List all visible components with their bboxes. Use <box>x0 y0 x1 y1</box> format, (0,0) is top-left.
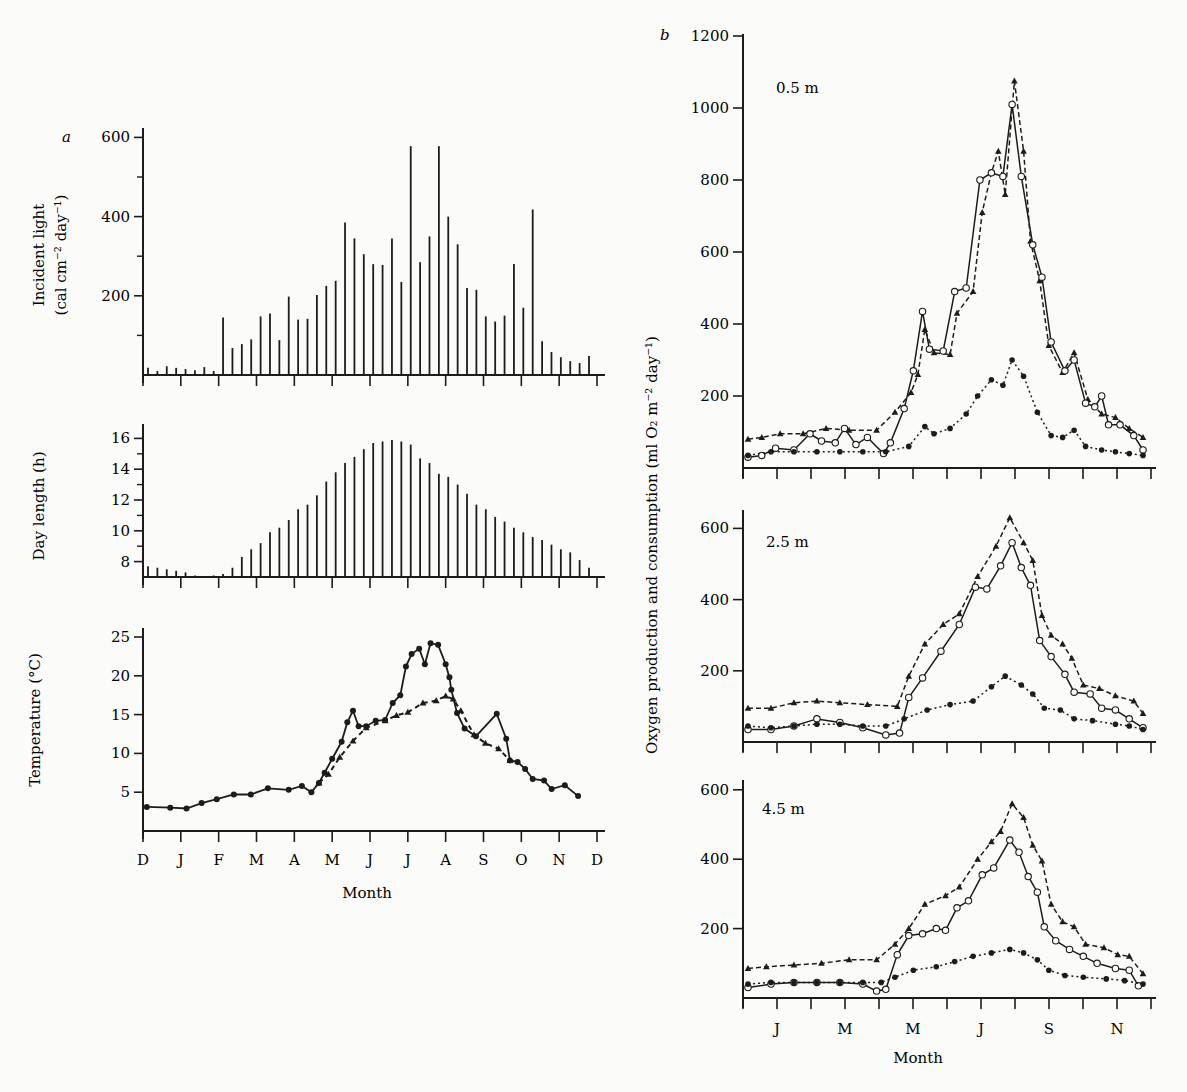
temperature-lines <box>144 640 581 811</box>
data-point-filled-circle <box>1062 973 1068 979</box>
data-point-open-circle <box>963 285 969 291</box>
data-point-open-circle <box>883 986 889 992</box>
data-point-triangle <box>457 707 464 713</box>
data-point-triangle <box>974 573 981 579</box>
data-point-open-circle <box>896 730 902 736</box>
y-tick-label: 400 <box>101 208 130 226</box>
data-point-triangle <box>442 692 449 698</box>
data-point-filled-circle <box>1002 673 1008 679</box>
data-point-open-circle <box>1126 716 1132 722</box>
data-point-open-circle <box>1009 539 1015 545</box>
data-point-open-circle <box>979 872 985 878</box>
data-point-circle <box>329 756 335 762</box>
data-point-filled-circle <box>791 723 797 729</box>
data-point-open-circle <box>1062 368 1068 374</box>
data-point-circle <box>397 692 403 698</box>
data-point-open-circle <box>1041 924 1047 930</box>
data-point-circle <box>167 805 173 811</box>
y-tick-label: 8 <box>120 553 130 571</box>
y-tick-label: 16 <box>111 429 130 447</box>
data-point-circle <box>428 640 434 646</box>
data-point-filled-circle <box>791 980 797 986</box>
data-point-filled-circle <box>1140 453 1146 459</box>
data-point-circle <box>214 796 220 802</box>
x-tick-label: J <box>976 1020 984 1038</box>
data-point-filled-circle <box>963 411 969 417</box>
y-tick-label: 400 <box>700 591 729 609</box>
data-point-circle <box>422 661 428 667</box>
x-tick-label: D <box>591 851 603 869</box>
data-point-triangle <box>995 148 1002 154</box>
data-point-triangle <box>956 610 963 616</box>
data-point-triangle <box>922 901 929 907</box>
data-point-triangle <box>970 288 977 294</box>
data-point-triangle <box>1048 901 1055 907</box>
data-point-open-circle <box>1034 889 1040 895</box>
data-point-open-circle <box>1126 967 1132 973</box>
oxygen-4-5m-axes: JMMJSN200400600 <box>700 780 1156 1038</box>
data-point-triangle <box>1112 692 1119 698</box>
data-point-filled-circle <box>989 377 995 383</box>
day-length-chart: 810121416 Day length (h) <box>30 424 605 588</box>
temperature-ylabel: Temperature (°C) <box>26 653 44 787</box>
y-tick-label: 10 <box>111 522 130 540</box>
data-point-open-circle <box>1048 653 1054 659</box>
data-point-circle <box>515 759 521 765</box>
data-point-filled-circle <box>901 716 907 722</box>
data-point-circle <box>265 785 271 791</box>
panel-b-letter: b <box>660 26 670 44</box>
y-tick-label: 800 <box>700 171 729 189</box>
data-point-triangle <box>1080 682 1087 688</box>
data-point-triangle <box>1082 941 1089 947</box>
data-point-open-circle <box>1062 671 1068 677</box>
data-point-open-circle <box>919 931 925 937</box>
data-point-circle <box>443 661 449 667</box>
data-point-filled-circle <box>911 967 917 973</box>
data-point-circle <box>199 800 205 806</box>
y-tick-label: 600 <box>700 243 729 261</box>
data-point-filled-circle <box>1099 447 1105 453</box>
incident-light-axes: 200400600 <box>101 128 605 386</box>
data-point-filled-circle <box>1030 691 1036 697</box>
data-point-open-circle <box>1071 689 1077 695</box>
figure: a b 200400600 Incident light (cal cm⁻² d… <box>0 0 1187 1092</box>
data-point-circle <box>339 739 345 745</box>
data-point-circle <box>308 789 314 795</box>
data-point-filled-circle <box>1113 449 1119 455</box>
data-point-open-circle <box>940 348 946 354</box>
data-point-open-circle <box>1027 582 1033 588</box>
data-point-circle <box>541 778 547 784</box>
data-point-filled-circle <box>1007 947 1013 953</box>
x-tick-label: M <box>905 1020 920 1038</box>
data-point-circle <box>522 766 528 772</box>
data-point-circle <box>390 700 396 706</box>
data-point-open-circle <box>883 732 889 738</box>
data-point-filled-circle <box>975 393 981 399</box>
gross-production-line <box>748 81 1143 439</box>
data-point-open-circle <box>1082 400 1088 406</box>
data-point-filled-circle <box>1018 682 1024 688</box>
data-point-triangle <box>940 621 947 627</box>
data-point-open-circle <box>901 405 907 411</box>
data-point-circle <box>503 736 509 742</box>
data-point-circle <box>356 723 362 729</box>
data-point-open-circle <box>926 346 932 352</box>
data-point-open-circle <box>1131 432 1137 438</box>
data-point-filled-circle <box>1126 451 1132 457</box>
data-point-filled-circle <box>1000 382 1006 388</box>
data-point-open-circle <box>1087 691 1093 697</box>
data-point-filled-circle <box>947 702 953 708</box>
oxygen-0-5m-chart: 20040060080010001200 0.5 m <box>691 27 1156 479</box>
data-point-filled-circle <box>989 950 995 956</box>
data-point-filled-circle <box>892 974 898 980</box>
data-point-circle <box>494 711 500 717</box>
data-point-filled-circle <box>1071 716 1077 722</box>
oxygen-2-5m-chart: 200400600 2.5 m <box>700 510 1156 753</box>
data-point-circle <box>416 646 422 652</box>
y-tick-label: 400 <box>700 850 729 868</box>
data-point-filled-circle <box>745 723 751 729</box>
data-point-circle <box>562 782 568 788</box>
data-point-open-circle <box>1098 705 1104 711</box>
data-point-open-circle <box>919 308 925 314</box>
data-point-open-circle <box>1071 357 1077 363</box>
